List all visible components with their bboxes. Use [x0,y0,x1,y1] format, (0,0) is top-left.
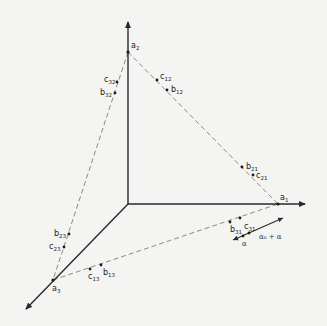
label-b12: b12 [171,85,183,95]
label-c12: c12 [160,72,171,82]
point-b23 [68,233,71,236]
coordinate-axes [26,22,305,309]
label-c13: c13 [88,272,100,282]
label-c23: c23 [49,242,61,252]
axis-3 [26,204,128,309]
point-c32 [116,81,119,84]
label-b31: b31 [230,225,242,235]
point-c31 [239,217,242,220]
point-c12 [156,79,159,82]
label-c32: c32 [104,75,115,85]
diagram-canvas: α₀ + αα c12b12b21c21c32b32b23c23c13b13b3… [0,0,327,326]
label-a2: a2 [131,41,139,51]
point-c23 [63,246,66,249]
point-b21 [241,166,244,169]
label-c31: c31 [244,222,255,232]
step-dot-0 [242,235,245,238]
point-c13 [89,268,92,271]
step-dot-1 [248,232,251,235]
point-b31 [229,221,232,224]
point-b13 [100,264,103,267]
label-b23: b23 [54,229,67,239]
label-b13: b13 [103,268,116,278]
edge-points: c12b12b21c21c32b32b23c23c13b13b31c31 [49,72,267,282]
vertex-a3 [51,278,54,281]
point-c21 [252,174,255,177]
simplex-diagram: α₀ + αα c12b12b21c21c32b32b23c23c13b13b3… [0,0,327,326]
vertex-a2 [126,50,129,53]
label-c21: c21 [256,171,267,181]
vertex-a1 [276,202,279,205]
simplex-edge-0 [128,52,278,204]
point-b12 [166,89,169,92]
label-b32: b32 [100,88,112,98]
point-b32 [114,92,117,95]
label-alpha0-plus-alpha: α₀ + α [259,233,282,241]
label-a1: a1 [280,193,288,203]
label-alpha: α [242,240,247,248]
label-a3: a3 [52,284,61,294]
